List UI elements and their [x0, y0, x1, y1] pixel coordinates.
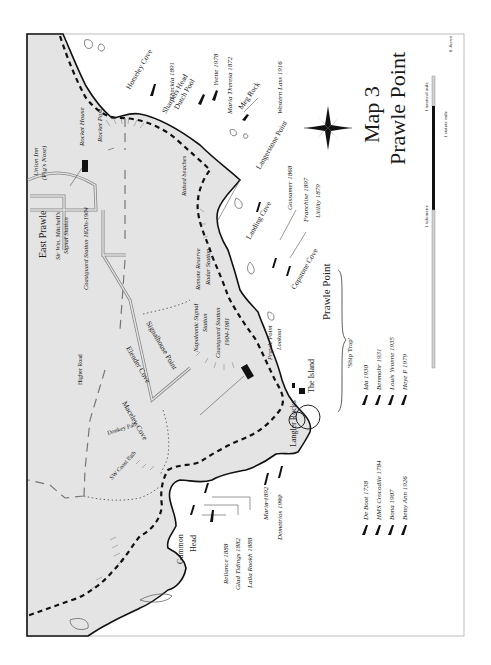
map-title-line1: Map 3 [359, 86, 384, 143]
ship-trap-wreck: Benmohr 1931 [375, 349, 383, 390]
place-signal-station-line2: Signal Station [62, 217, 69, 254]
wreck-label: Lalla Rookh 1888 [246, 537, 254, 589]
place-union-inn: Union Inn [32, 147, 40, 176]
place-langler-rocks: Langler Rocks [289, 400, 298, 447]
place-napoleonic-line1: Napoleonic Signal [192, 304, 199, 353]
wreck-label: Maria Theresa 1872 [226, 56, 234, 115]
place-prawle-point: Prawle Point [320, 263, 332, 320]
place-pigs-nose: (Pig's Nose) [40, 145, 48, 180]
scale-statute: 1 statute mile [443, 110, 448, 138]
place-rocket-post: Rocket Post [96, 108, 104, 143]
ship-trap-wreck: Ida 1930 [362, 364, 370, 391]
place-the-island: The Island [307, 359, 316, 393]
ship-trap-wreck: Betsy Ann 1926 [401, 476, 409, 520]
place-raised-beaches: Raised beaches [180, 155, 187, 197]
rocket-house-building [82, 160, 88, 172]
scale-nautical: 1 nautical mile [424, 82, 429, 112]
place-gammon-head-line2: Head [189, 535, 198, 552]
wreck-label: Theckla 1891 [168, 62, 176, 100]
place-napoleonic-line2: Station [201, 314, 208, 332]
place-coastguard-1904-line1: Coastguard Station [214, 307, 221, 358]
ship-trap-heading: 'Ship Trap' [346, 338, 354, 368]
place-rocket-house: Rocket House [78, 107, 86, 147]
place-lookout-line1: Prawle Point [266, 325, 273, 361]
map-title-line2: Prawle Point [385, 52, 410, 165]
wreck-label: Reliance 1888 [222, 543, 230, 585]
wreck-label: Franchise 1897 [302, 177, 310, 223]
prawle-point-map: Map 3 Prawle Point R. Barrett 1 nautical… [0, 0, 491, 665]
ship-trap-wreck: Heye P 1979 [401, 353, 409, 391]
wreck-label: Utility 1879 [314, 184, 322, 218]
wreck-label: Gossamer 1868 [286, 165, 294, 210]
wreck-label: Maria 1892 [262, 486, 270, 521]
ship-trap-wreck: Bona 1907 [388, 489, 396, 520]
scale-bar [432, 76, 435, 368]
place-signal-station-line1: Sir Wm. Mitchell's [54, 211, 61, 260]
place-coastguard-1820: Coastguard Station 1820s-1904 [82, 206, 89, 290]
place-higher-road: Higher Road [77, 354, 83, 385]
ship-trap-wreck: De Boot 1738 [362, 481, 370, 521]
place-coastguard-1904-line2: 1904-1981 [223, 318, 230, 346]
place-remote-radar-line1: Remote Reserve [194, 248, 201, 291]
map-credit: R. Barrett [448, 35, 453, 53]
place-east-prawle: East Prawle [37, 210, 48, 258]
wreck-label: Glad Tidings 1882 [234, 537, 242, 590]
place-lookout-line2: Lookout [275, 329, 282, 352]
lookout-building [299, 388, 305, 394]
wreck-label: Demetrios 1992 [276, 495, 284, 541]
place-gammon-head-line1: Gammon [176, 534, 185, 564]
wreck-label: Yvette 1978 [212, 53, 220, 86]
ship-trap-wreck: Louis Yvonne 1935 [388, 336, 396, 391]
place-remote-radar-line2: Radar Station [204, 249, 211, 286]
ship-trap-wreck: HMS Crocodile 1784 [375, 460, 383, 521]
wreck-label: Western Lass 1916 [276, 61, 284, 114]
scale-kilometre: 1 kilometre [424, 204, 429, 228]
